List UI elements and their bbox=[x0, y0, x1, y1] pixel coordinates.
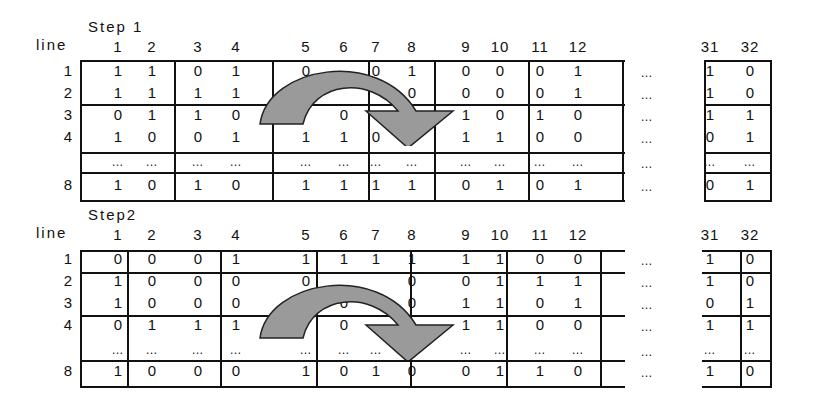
bit-cell: 1 bbox=[103, 62, 133, 79]
bit-cell: 0 bbox=[735, 62, 765, 79]
bit-cell: 1 bbox=[183, 106, 213, 123]
bit-cell: 1 bbox=[137, 62, 167, 79]
bit-cell: 1 bbox=[735, 106, 765, 123]
grid-line bbox=[80, 60, 82, 202]
bit-cell: 1 bbox=[563, 272, 593, 289]
ellipsis-gap: … bbox=[632, 276, 662, 290]
bit-cell: 1 bbox=[485, 272, 515, 289]
column-header: 10 bbox=[485, 226, 515, 243]
bit-cell: 1 bbox=[485, 250, 515, 267]
bit-cell: 0 bbox=[485, 106, 515, 123]
grid-line bbox=[704, 60, 772, 62]
grid-line bbox=[704, 152, 772, 154]
bit-cell: 1 bbox=[695, 316, 725, 333]
bit-cell: 0 bbox=[103, 106, 133, 123]
bit-cell: 1 bbox=[221, 84, 251, 101]
row-label: 8 bbox=[52, 176, 72, 193]
bit-cell: 0 bbox=[485, 84, 515, 101]
column-header: 8 bbox=[397, 226, 427, 243]
bit-cell: 1 bbox=[183, 316, 213, 333]
bit-cell: 0 bbox=[221, 272, 251, 289]
column-header: 12 bbox=[563, 226, 593, 243]
grid-line bbox=[80, 172, 625, 174]
bit-cell: 1 bbox=[103, 176, 133, 193]
bit-cell: 0 bbox=[735, 84, 765, 101]
row-label: 4 bbox=[52, 316, 72, 333]
bit-cell: 0 bbox=[221, 176, 251, 193]
bit-cell: 0 bbox=[183, 128, 213, 145]
grid-line bbox=[704, 104, 772, 106]
bit-cell: 0 bbox=[183, 362, 213, 379]
line-label: line bbox=[36, 224, 67, 241]
grid-line bbox=[80, 152, 625, 154]
bit-cell: 1 bbox=[183, 84, 213, 101]
ellipsis-gap: … bbox=[632, 157, 662, 171]
bit-cell: 1 bbox=[361, 250, 391, 267]
bit-cell: 0 bbox=[695, 176, 725, 193]
bit-cell: 0 bbox=[397, 362, 427, 379]
column-header: 10 bbox=[485, 38, 515, 55]
bit-cell: … bbox=[485, 343, 515, 357]
bit-cell: 0 bbox=[137, 250, 167, 267]
column-header: 11 bbox=[525, 226, 555, 243]
bit-cell: 0 bbox=[329, 362, 359, 379]
curved-arrow-icon bbox=[258, 56, 458, 146]
grid-line bbox=[770, 250, 772, 386]
row-label: 8 bbox=[52, 362, 72, 379]
ellipsis-gap: … bbox=[632, 110, 662, 124]
bit-cell: … bbox=[563, 155, 593, 169]
column-header: 1 bbox=[103, 38, 133, 55]
grid-line bbox=[770, 60, 772, 202]
column-header: 2 bbox=[137, 38, 167, 55]
bit-cell: … bbox=[221, 343, 251, 357]
bit-cell: 1 bbox=[695, 362, 725, 379]
ellipsis-gap: … bbox=[632, 88, 662, 102]
bit-cell: … bbox=[695, 343, 725, 357]
bit-permutation-diagram: Step 1line123456789101112313211101001000… bbox=[0, 0, 834, 405]
bit-cell: 1 bbox=[735, 128, 765, 145]
grid-line bbox=[528, 60, 530, 202]
bit-cell: 0 bbox=[563, 106, 593, 123]
bit-cell: 1 bbox=[525, 362, 555, 379]
bit-cell: 0 bbox=[221, 362, 251, 379]
column-header: 4 bbox=[221, 226, 251, 243]
bit-cell: 1 bbox=[563, 84, 593, 101]
bit-cell: … bbox=[563, 343, 593, 357]
grid-line bbox=[622, 60, 624, 202]
bit-cell: … bbox=[485, 155, 515, 169]
bit-cell: 1 bbox=[695, 62, 725, 79]
bit-cell: 1 bbox=[221, 250, 251, 267]
grid-line bbox=[80, 200, 625, 202]
bit-cell: 1 bbox=[563, 62, 593, 79]
row-label: 1 bbox=[52, 250, 72, 267]
bit-cell: 1 bbox=[485, 294, 515, 311]
bit-cell: … bbox=[451, 155, 481, 169]
grid-line bbox=[80, 250, 82, 386]
bit-cell: … bbox=[183, 343, 213, 357]
bit-cell: 0 bbox=[221, 294, 251, 311]
bit-cell: 0 bbox=[137, 176, 167, 193]
bit-cell: 1 bbox=[329, 176, 359, 193]
grid-line bbox=[80, 360, 625, 362]
bit-cell: 0 bbox=[525, 250, 555, 267]
bit-cell: 1 bbox=[451, 250, 481, 267]
bit-cell: 0 bbox=[525, 316, 555, 333]
bit-cell: … bbox=[137, 155, 167, 169]
column-header: 7 bbox=[361, 226, 391, 243]
ellipsis-gap: … bbox=[632, 180, 662, 194]
column-header: 32 bbox=[735, 226, 765, 243]
bit-cell: 1 bbox=[397, 176, 427, 193]
bit-cell: 0 bbox=[525, 294, 555, 311]
bit-cell: 0 bbox=[183, 62, 213, 79]
ellipsis-gap: … bbox=[632, 298, 662, 312]
bit-cell: 1 bbox=[361, 176, 391, 193]
column-header: 6 bbox=[329, 226, 359, 243]
bit-cell: 1 bbox=[329, 250, 359, 267]
bit-cell: 1 bbox=[485, 176, 515, 193]
bit-cell: … bbox=[103, 155, 133, 169]
ellipsis-gap: … bbox=[632, 345, 662, 359]
bit-cell: 0 bbox=[183, 272, 213, 289]
column-header: 2 bbox=[137, 226, 167, 243]
bit-cell: … bbox=[291, 155, 321, 169]
bit-cell: 0 bbox=[451, 362, 481, 379]
